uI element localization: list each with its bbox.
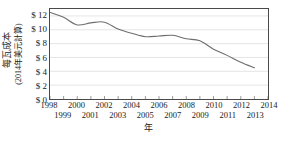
y-axis-title: 每瓦成本 (2014年美元計算) — [0, 0, 26, 104]
x-axis-title: 年 — [0, 123, 296, 133]
y-tick-label: $ 6 — [36, 53, 47, 62]
x-axis-tick-labels: 1998199920002001200220032004200520062007… — [49, 101, 269, 123]
x-tick-label: 2005 — [137, 111, 154, 120]
y-tick-label: $ 10 — [31, 25, 47, 34]
y-axis-title-line-2: (2014年美元計算) — [14, 23, 23, 84]
x-tick-label: 1998 — [41, 101, 58, 110]
x-tick-label: 2011 — [219, 111, 236, 120]
y-tick-label: $ 8 — [36, 39, 47, 48]
cost-per-watt-line — [50, 12, 254, 67]
x-tick-label: 2003 — [109, 111, 126, 120]
y-tick-label: $ 4 — [36, 67, 47, 76]
x-tick-label: 2009 — [192, 111, 209, 120]
y-axis-tick-labels: $ 0$ 2$ 4$ 6$ 8$ 10$ 12 — [24, 8, 48, 100]
x-gridlines — [50, 96, 268, 99]
x-tick-label: 2001 — [82, 111, 99, 120]
x-tick-label: 2002 — [96, 101, 113, 110]
gridlines — [50, 16, 268, 85]
x-tick-label: 2013 — [247, 111, 264, 120]
x-tick-label: 2000 — [68, 101, 85, 110]
x-tick-label: 2007 — [164, 111, 181, 120]
x-tick-label: 2004 — [123, 101, 140, 110]
x-tick-label: 2010 — [206, 101, 223, 110]
y-axis-title-line-1: 每瓦成本 — [3, 32, 12, 68]
solar-cost-per-watt-chart: 每瓦成本 (2014年美元計算) $ 0$ 2$ 4$ 6$ 8$ 10$ 12… — [0, 0, 296, 142]
x-tick-label: 2014 — [261, 101, 278, 110]
x-tick-label: 2006 — [151, 101, 168, 110]
y-tick-label: $ 12 — [31, 11, 47, 20]
x-tick-label: 1999 — [54, 111, 71, 120]
plot-area — [49, 8, 269, 100]
plot-svg — [50, 9, 268, 99]
x-tick-label: 2012 — [233, 101, 250, 110]
x-tick-label: 2008 — [178, 101, 195, 110]
y-tick-label: $ 2 — [36, 81, 47, 90]
